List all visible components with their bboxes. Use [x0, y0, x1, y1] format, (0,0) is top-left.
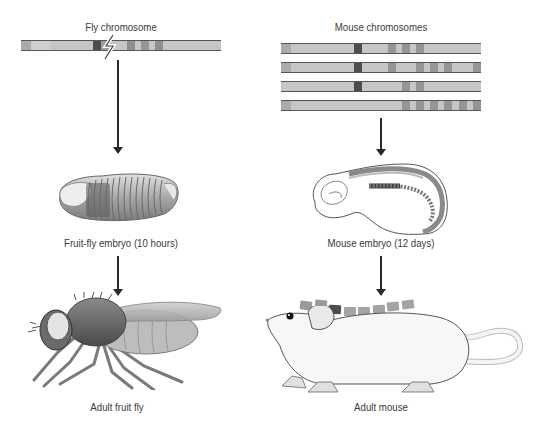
mouse-chromosomes-label: Mouse chromosomes [328, 21, 434, 33]
chromosome-band [354, 44, 362, 53]
chromosome-band [416, 101, 424, 110]
adult-mouse-illustration [262, 306, 534, 396]
mouse-chromosome-bar-3 [281, 81, 481, 92]
arrow-fly-embryo-to-adult [117, 256, 119, 290]
arrow-mouse-embryo-to-adult [380, 256, 382, 290]
chromosome-band [444, 63, 452, 72]
chromosome-band [430, 101, 438, 110]
chromosome-band [388, 63, 396, 72]
chromosome-band [354, 82, 362, 91]
chromosome-band [281, 63, 291, 72]
chromosome-band [281, 44, 291, 53]
mouse-chromosome-bar-1 [281, 43, 481, 54]
chromosome-band [473, 101, 481, 110]
chromosome-band [402, 44, 410, 53]
arrow-fly-chromosome-to-embryo [117, 60, 119, 148]
adult-fruit-fly-label: Adult fruit fly [73, 401, 161, 413]
fruit-fly-embryo-label: Fruit-fly embryo (10 hours) [55, 237, 187, 249]
chromosome-band [416, 63, 424, 72]
chromosome-band [473, 63, 481, 72]
chromosome-band [141, 41, 149, 50]
chromosome-band [127, 41, 135, 50]
chromosome-band [416, 44, 424, 53]
chromosome-break-icon [100, 34, 120, 60]
arrow-mouse-chromosomes-to-embryo [380, 118, 382, 150]
chromosome-band [155, 41, 163, 50]
chromosome-band [402, 82, 410, 91]
chromosome-band [402, 101, 410, 110]
chromosome-band [459, 101, 467, 110]
mouse-chromosome-bar-2 [281, 62, 481, 73]
fruit-fly-embryo-illustration [52, 168, 182, 224]
fly-chromosome-bar [21, 40, 221, 51]
chromosome-band [444, 101, 452, 110]
adult-fruit-fly-illustration [14, 290, 224, 390]
chromosome-band [416, 82, 424, 91]
mouse-embryo-label: Mouse embryo (12 days) [319, 237, 442, 249]
chromosome-band [21, 41, 31, 50]
mouse-embryo-illustration [305, 160, 455, 238]
chromosome-band [430, 63, 438, 72]
chromosome-band [388, 44, 396, 53]
chromosome-band [354, 63, 362, 72]
adult-mouse-label: Adult mouse [337, 401, 425, 413]
fly-chromosome-label: Fly chromosome [77, 21, 165, 33]
mouse-chromosome-bar-4 [281, 100, 481, 111]
chromosome-band [31, 41, 51, 50]
chromosome-band [281, 101, 291, 110]
